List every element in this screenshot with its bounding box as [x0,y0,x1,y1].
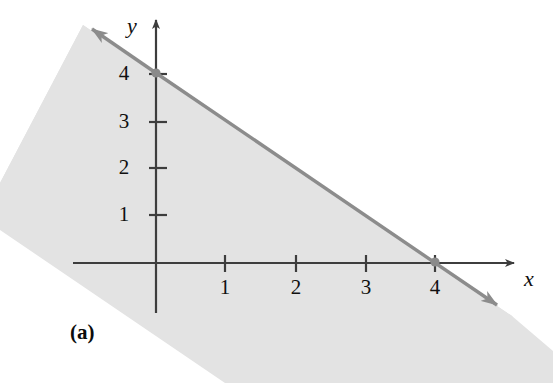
y-axis-label: y [127,15,137,37]
y-tick-label-4: 4 [112,63,136,84]
x-tick-label-3: 3 [354,277,378,298]
y-tick-label-3: 3 [112,111,136,132]
panel-label: (a) [70,322,95,343]
x-tick-label-4: 4 [423,277,447,298]
y-tick-label-1: 1 [112,204,136,225]
x-tick-label-1: 1 [213,277,237,298]
y-tick-label-2: 2 [112,157,136,178]
x-axis-label: x [524,268,534,290]
point-x-intercept [430,257,439,266]
x-tick-label-2: 2 [284,277,308,298]
point-y-intercept [151,68,160,77]
graph-figure: 4 3 2 1 1 2 3 4 y x (a) [0,0,553,383]
